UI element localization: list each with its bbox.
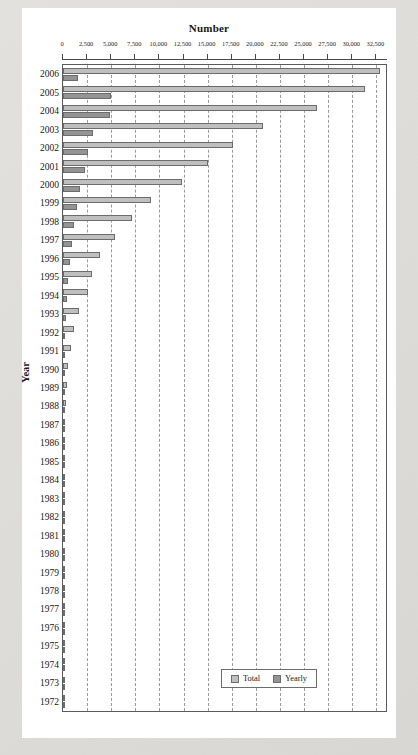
x-tick-mark [134,54,135,59]
bar-yearly [63,112,110,118]
bar-yearly [63,75,78,81]
x-tick-label: 17,500 [222,40,240,47]
bar-row: 2003 [63,120,386,138]
bar-total [63,382,67,388]
bar-yearly [63,370,65,376]
bar-yearly [63,407,65,413]
y-tick-label: 1972 [40,697,59,707]
bar-row: 1979 [63,563,386,581]
bar-yearly [63,647,65,653]
x-tick-label: 15,000 [198,40,216,47]
bar-yearly [63,555,65,561]
x-tick-mark [62,54,63,59]
bar-yearly [63,629,65,635]
y-tick-label: 1977 [40,604,59,614]
bar-total [63,511,65,517]
bar-total [63,548,65,554]
bar-row: 2001 [63,157,386,175]
y-tick-label: 1992 [40,328,59,338]
bar-row: 1997 [63,231,386,249]
x-tick-label: 30,000 [342,40,360,47]
bar-total [63,474,65,480]
bar-row: 2005 [63,83,386,101]
bar-total [63,603,65,609]
bar-total [63,160,208,166]
y-tick-label: 2006 [40,69,59,79]
bar-total [63,437,65,443]
legend-label: Yearly [285,674,307,683]
bar-rows: 2006200520042003200220012000199919981997… [63,65,386,711]
bar-total [63,400,66,406]
bar-row: 1984 [63,471,386,489]
bar-yearly [63,130,93,136]
chart-canvas: Number Year 02,5005,0007,50010,00012,500… [22,8,396,738]
x-tick-mark [158,54,159,59]
x-tick-label: 12,500 [174,40,192,47]
bar-total [63,252,100,258]
x-tick-mark [207,54,208,59]
y-tick-label: 2002 [40,143,59,153]
bar-row: 1985 [63,453,386,471]
x-tick-mark [279,54,280,59]
bar-row: 1989 [63,379,386,397]
bar-total [63,215,132,221]
bar-row: 2000 [63,176,386,194]
bar-yearly [63,296,67,302]
bar-total [63,492,65,498]
bar-total [63,566,65,572]
bar-yearly [63,665,65,671]
y-tick-label: 1988 [40,401,59,411]
y-tick-label: 1989 [40,383,59,393]
bar-total [63,585,65,591]
bar-total [63,142,233,148]
legend-item[interactable]: Total [231,674,260,683]
x-tick-mark [375,54,376,59]
y-tick-label: 1979 [40,568,59,578]
bar-yearly [63,352,65,358]
y-tick-label: 1986 [40,438,59,448]
y-tick-label: 1974 [40,660,59,670]
bar-yearly [63,389,65,395]
x-tick-mark [183,54,184,59]
bar-row: 2006 [63,65,386,83]
bar-total [63,308,79,314]
y-tick-label: 1993 [40,309,59,319]
bar-total [63,326,74,332]
x-tick-mark [110,54,111,59]
chart-legend[interactable]: TotalYearly [221,669,317,688]
bar-yearly [63,684,65,690]
bar-yearly [63,426,65,432]
bar-row: 1996 [63,250,386,268]
bar-row: 1982 [63,508,386,526]
chart-title: Number [22,22,396,34]
legend-swatch-icon [273,675,281,683]
bar-row: 1978 [63,582,386,600]
x-tick-label: 5,000 [103,40,117,47]
bar-row: 1976 [63,619,386,637]
bar-row: 1995 [63,268,386,286]
bar-total [63,622,65,628]
y-axis-label: Year [20,362,31,383]
bar-yearly [63,536,65,542]
bar-row: 1972 [63,693,386,711]
y-tick-label: 2003 [40,125,59,135]
bar-yearly [63,518,65,524]
bar-total [63,123,263,129]
x-tick-label: 10,000 [150,40,168,47]
legend-item[interactable]: Yearly [273,674,307,683]
x-tick-mark [303,54,304,59]
bar-yearly [63,93,111,99]
bar-total [63,419,65,425]
bar-total [63,677,65,683]
bar-yearly [63,222,74,228]
bar-yearly [63,149,88,155]
bar-row: 1990 [63,360,386,378]
bar-row: 1994 [63,286,386,304]
legend-swatch-icon [231,675,239,683]
bar-row: 1975 [63,637,386,655]
plot-area: 2006200520042003200220012000199919981997… [62,64,387,712]
x-tick-label: 2,500 [79,40,93,47]
x-axis: 02,5005,0007,50010,00012,50015,00017,500… [62,52,387,64]
bar-total [63,234,115,240]
bar-total [63,105,317,111]
